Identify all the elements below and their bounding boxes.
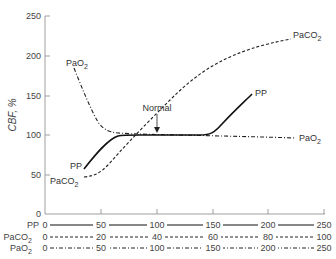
pao2-tick-100: 100 — [149, 243, 164, 253]
pao2-tick-250: 250 — [316, 243, 331, 253]
pao2-label-right: PaO2 — [299, 133, 321, 145]
pp-tick-50: 50 — [96, 220, 106, 230]
pao2-tick-50: 50 — [96, 243, 106, 253]
pao2-tick-150: 150 — [205, 243, 220, 253]
y-tick-250: 250 — [26, 11, 41, 21]
x-scale-paco2: PaCO2 0 20 40 60 80 100 — [4, 232, 336, 244]
normal-arrow-icon — [154, 127, 160, 133]
pp-tick-100: 100 — [149, 220, 164, 230]
pp-tick-150: 150 — [205, 220, 220, 230]
paco2-label-top: PaCO2 — [293, 30, 322, 42]
y-tick-200: 200 — [26, 51, 41, 61]
x-scale-pao2: PaO2 0 50 100 150 200 250 — [10, 243, 336, 255]
pao2-tick-200: 200 — [260, 243, 275, 253]
y-tick-100: 100 — [26, 130, 41, 140]
paco2-tick-0: 0 — [42, 232, 47, 242]
paco2-tick-40: 40 — [152, 232, 162, 242]
y-axis-label: CBF, % — [7, 98, 18, 131]
pp-tick-250: 250 — [316, 220, 331, 230]
paco2-tick-100: 100 — [316, 232, 331, 242]
axes — [45, 16, 325, 214]
y-tick-50: 50 — [31, 170, 41, 180]
pp-scale-name: PP — [27, 220, 39, 230]
y-tick-0: 0 — [36, 209, 41, 219]
y-tick-150: 150 — [26, 91, 41, 101]
pao2-scale-name: PaO2 — [10, 243, 32, 255]
paco2-tick-80: 80 — [263, 232, 273, 242]
paco2-curve — [84, 39, 291, 177]
paco2-tick-60: 60 — [208, 232, 218, 242]
pp-label-top: PP — [255, 88, 267, 98]
pao2-tick-0: 0 — [42, 243, 47, 253]
y-tick-labels: 0 50 100 150 200 250 — [26, 11, 41, 219]
paco2-label-bottom: PaCO2 — [50, 176, 79, 188]
x-scale-pp: PP 0 50 100 150 200 250 — [27, 220, 336, 230]
normal-label: Normal — [142, 103, 171, 113]
pao2-curve — [74, 68, 296, 138]
pao2-label-top: PaO2 — [66, 58, 88, 70]
pp-label-bottom: PP — [70, 161, 82, 171]
pp-tick-200: 200 — [260, 220, 275, 230]
normal-annotation: Normal — [142, 103, 171, 133]
paco2-tick-20: 20 — [96, 232, 106, 242]
cbf-chart: 0 50 100 150 200 250 CBF, % Normal PaO2 … — [0, 0, 336, 259]
pp-tick-0: 0 — [42, 220, 47, 230]
